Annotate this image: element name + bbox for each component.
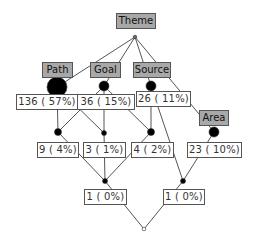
count-source[interactable]: 26 ( 11%) — [136, 91, 191, 107]
node-path-goal[interactable] — [55, 129, 62, 136]
node-source-area[interactable] — [181, 179, 186, 184]
attribute-source[interactable]: Source — [133, 62, 171, 78]
count-goal-only[interactable]: 3 ( 1%) — [83, 142, 126, 158]
attribute-area[interactable]: Area — [199, 110, 229, 126]
node-area[interactable] — [209, 127, 219, 137]
node-source[interactable] — [146, 81, 156, 91]
count-path-goal[interactable]: 9 ( 4%) — [37, 142, 79, 158]
node-goal-source[interactable] — [148, 129, 155, 136]
attribute-path[interactable]: Path — [42, 62, 73, 78]
attribute-goal[interactable]: Goal — [90, 62, 121, 78]
count-goal-source[interactable]: 4 ( 2%) — [131, 142, 174, 158]
count-source-area[interactable]: 1 ( 0%) — [163, 189, 205, 205]
attribute-theme[interactable]: Theme — [116, 13, 156, 29]
node-goal[interactable] — [99, 81, 109, 91]
top-node[interactable] — [133, 35, 137, 39]
count-goal[interactable]: 36 ( 15%) — [77, 94, 135, 110]
count-area[interactable]: 23 ( 10%) — [187, 142, 242, 158]
node-goal-only[interactable] — [102, 131, 107, 136]
count-path-goal-source[interactable]: 1 ( 0%) — [84, 189, 127, 205]
bottom-node[interactable] — [142, 227, 146, 231]
count-path[interactable]: 136 ( 57%) — [16, 94, 78, 110]
node-path-goal-source[interactable] — [103, 179, 108, 184]
